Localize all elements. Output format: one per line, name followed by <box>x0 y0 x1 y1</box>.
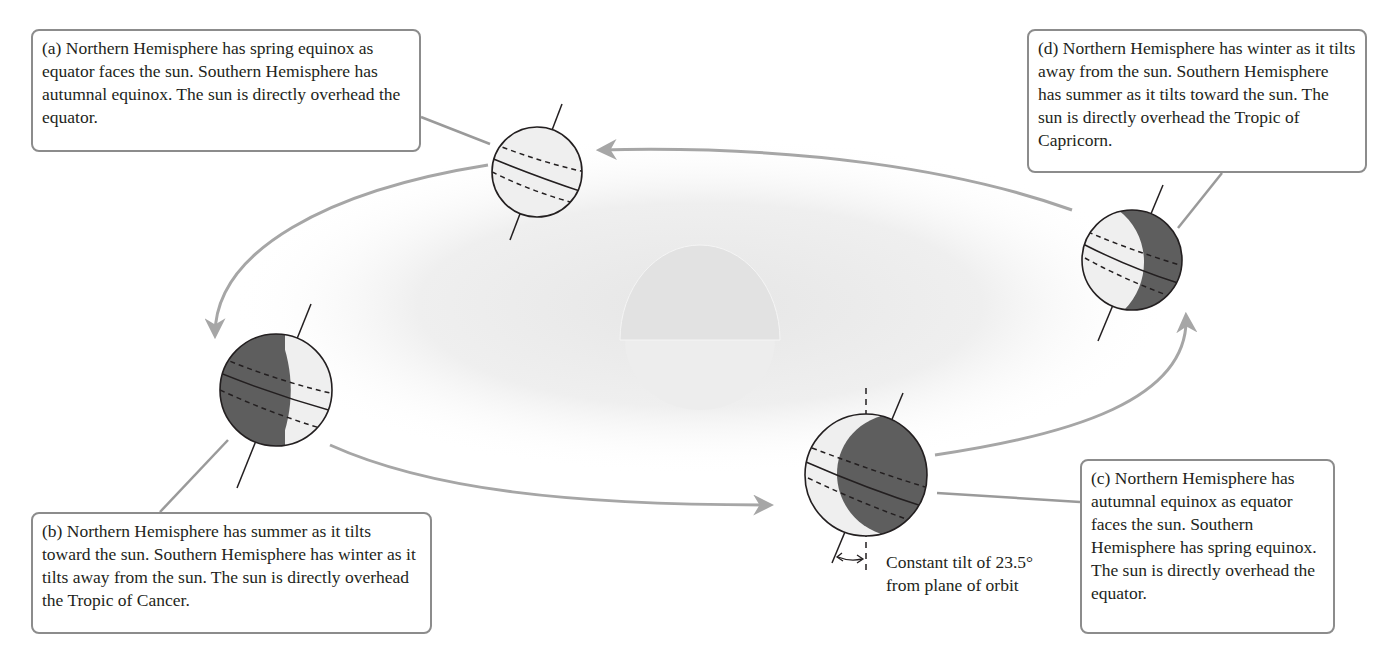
tilt-angle-arrow-icon <box>837 553 863 563</box>
tilt-annotation: Constant tilt of 23.5° from plane of orb… <box>886 551 1033 597</box>
callout-b-northern-summer: (b) Northern Hemisphere has summer as it… <box>31 512 432 634</box>
callout-d-text: (d) Northern Hemisphere has winter as it… <box>1038 37 1356 152</box>
tilt-annotation-line1: Constant tilt of 23.5° <box>886 551 1033 574</box>
callout-c-autumnal-equinox: (c) Northern Hemisphere has autumnal equ… <box>1080 459 1335 634</box>
callout-a-text: (a) Northern Hemisphere has spring equin… <box>42 37 410 129</box>
tilt-annotation-line2: from plane of orbit <box>886 574 1033 597</box>
callout-b-text: (b) Northern Hemisphere has summer as it… <box>42 520 421 612</box>
callout-a-spring-equinox: (a) Northern Hemisphere has spring equin… <box>31 29 421 152</box>
callout-d-northern-winter: (d) Northern Hemisphere has winter as it… <box>1027 29 1367 173</box>
callout-c-text: (c) Northern Hemisphere has autumnal equ… <box>1091 467 1324 605</box>
